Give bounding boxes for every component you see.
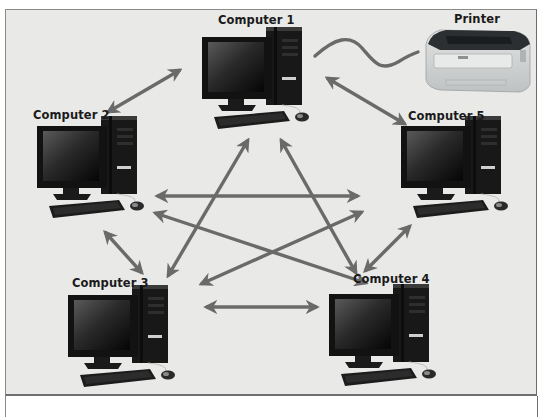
computer5-icon [401,116,508,218]
arrow-computer1-computer2 [108,70,180,112]
printer-icon [426,30,530,92]
computer4-icon [329,284,436,386]
label-computer4: Computer 4 [353,272,430,286]
printer-cable [315,40,418,66]
label-computer2: Computer 2 [33,108,110,122]
arrow-computer1-computer4 [281,140,356,273]
label-computer3: Computer 3 [72,276,149,290]
arrow-computer1-computer5 [327,78,405,124]
arrow-computer1-computer3 [168,140,248,276]
label-computer5: Computer 5 [408,109,485,123]
computer2-icon [37,116,144,218]
label-computer1: Computer 1 [218,13,295,27]
network-diagram [0,0,539,417]
computer3-icon [68,285,175,387]
arrow-computer2-computer3 [105,232,142,273]
label-printer: Printer [454,12,500,26]
computer1-icon [202,27,309,129]
arrow-computer5-computer4 [365,226,410,271]
